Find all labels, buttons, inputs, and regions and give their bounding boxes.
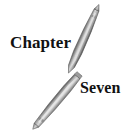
upper-pen-shadow-edge	[74, 15, 99, 68]
crossed-pens-illustration	[0, 0, 133, 139]
lower-pen-group	[30, 71, 83, 132]
chapter-label: Chapter	[10, 34, 71, 51]
chapter-number-label: Seven	[80, 80, 121, 96]
chapter-divider-page: Chapter Seven	[0, 0, 133, 139]
lower-pen-highlight	[37, 76, 77, 123]
upper-pen-highlight	[70, 12, 97, 69]
